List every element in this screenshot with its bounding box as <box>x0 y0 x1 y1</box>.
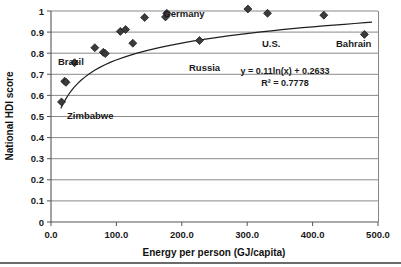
x-axis-title: Energy per person (GJ/capita) <box>143 247 286 258</box>
x-tick-label: 0.0 <box>44 229 57 240</box>
series-label-bahrain: Bahrain <box>336 38 372 49</box>
y-tick-label: 0.9 <box>31 27 44 38</box>
series-label-germany: Germany <box>163 8 205 19</box>
x-tick-label: 500.0 <box>366 229 390 240</box>
scatter-plot-svg: 1 0.9 0.8 0.7 0.6 0.5 0.4 0.3 0.2 0.1 0 … <box>0 0 401 267</box>
y-tick-label: 0.7 <box>31 69 44 80</box>
y-tick-label: 0.3 <box>31 153 44 164</box>
y-axis-title: National HDI score <box>4 71 15 160</box>
series-label-zimbabwe: Zimbabwe <box>67 110 113 121</box>
y-tick-label: 0.8 <box>31 48 44 59</box>
series-label-brazil: Brazil <box>58 56 84 67</box>
x-tick-label: 200.0 <box>170 229 194 240</box>
x-tick-label: 300.0 <box>235 229 259 240</box>
series-label-us: U.S. <box>262 38 280 49</box>
y-tick-label: 0.6 <box>31 90 44 101</box>
chart-figure: 1 0.9 0.8 0.7 0.6 0.5 0.4 0.3 0.2 0.1 0 … <box>0 0 401 267</box>
series-label-russia: Russia <box>189 62 221 73</box>
x-tick-label: 100.0 <box>105 229 129 240</box>
trendline-r-squared: R² = 0.7778 <box>261 78 308 88</box>
trendline-equation: y = 0.11ln(x) + 0.2633 <box>240 66 329 76</box>
y-tick-label: 0.2 <box>31 174 44 185</box>
y-tick-label: 0.1 <box>31 195 45 206</box>
x-tick-label: 400.0 <box>301 229 325 240</box>
y-tick-label: 1 <box>39 6 45 17</box>
y-tick-label: 0.4 <box>31 132 45 143</box>
y-tick-label: 0 <box>39 217 44 228</box>
y-tick-label: 0.5 <box>31 111 45 122</box>
